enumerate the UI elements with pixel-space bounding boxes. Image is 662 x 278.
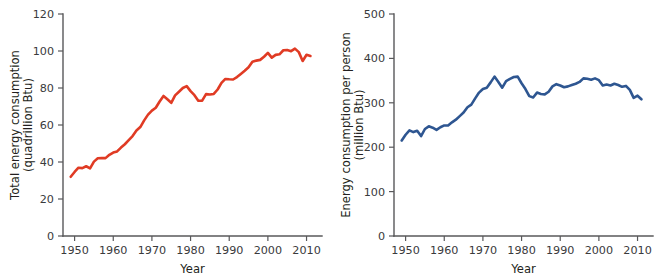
x-tick-label-1970: 1970 bbox=[138, 244, 166, 257]
x-axis-title: Year bbox=[510, 262, 536, 276]
y-tick-label-120: 120 bbox=[33, 8, 54, 21]
x-tick-label-2000: 2000 bbox=[254, 244, 282, 257]
y-axis-title-line-2: (quadrillion Btu) bbox=[21, 78, 35, 172]
chart-panel-per-person: 0100200300400500195019601970198019902000… bbox=[331, 0, 662, 278]
x-tick-label-1990: 1990 bbox=[215, 244, 243, 257]
x-tick-label-1960: 1960 bbox=[430, 244, 458, 257]
x-tick-label-1950: 1950 bbox=[60, 244, 88, 257]
y-tick-label-200: 200 bbox=[364, 141, 385, 154]
y-axis-title-line-1: Total energy consumption bbox=[8, 50, 22, 201]
x-tick-label-1960: 1960 bbox=[99, 244, 127, 257]
y-tick-label-60: 60 bbox=[40, 119, 54, 132]
y-tick-label-40: 40 bbox=[40, 156, 54, 169]
x-axis-title: Year bbox=[179, 262, 205, 276]
per-person-chart-svg: 0100200300400500195019601970198019902000… bbox=[331, 0, 662, 278]
y-axis-title-line-1: Energy consumption per person bbox=[339, 32, 353, 218]
x-tick-label-1980: 1980 bbox=[507, 244, 535, 257]
y-tick-label-0: 0 bbox=[378, 230, 385, 243]
x-tick-label-2010: 2010 bbox=[292, 244, 320, 257]
x-tick-label-1980: 1980 bbox=[176, 244, 204, 257]
x-tick-label-1990: 1990 bbox=[546, 244, 574, 257]
y-axis-title-line-2: (million Btu) bbox=[352, 89, 366, 160]
x-tick-label-2010: 2010 bbox=[623, 244, 651, 257]
y-tick-label-500: 500 bbox=[364, 8, 385, 21]
y-tick-label-400: 400 bbox=[364, 52, 385, 65]
series-line-1 bbox=[402, 77, 642, 141]
energy-consumption-figure: 0204060801001201950196019701980199020002… bbox=[0, 0, 662, 278]
y-tick-label-0: 0 bbox=[47, 230, 54, 243]
series-line-1 bbox=[71, 49, 311, 177]
x-tick-label-1970: 1970 bbox=[469, 244, 497, 257]
y-tick-label-80: 80 bbox=[40, 82, 54, 95]
total-energy-chart-svg: 0204060801001201950196019701980199020002… bbox=[0, 0, 331, 278]
x-tick-label-1950: 1950 bbox=[391, 244, 419, 257]
y-tick-label-300: 300 bbox=[364, 97, 385, 110]
y-tick-label-100: 100 bbox=[33, 45, 54, 58]
x-tick-label-2000: 2000 bbox=[585, 244, 613, 257]
y-tick-label-20: 20 bbox=[40, 193, 54, 206]
y-tick-label-100: 100 bbox=[364, 186, 385, 199]
chart-panel-total-energy: 0204060801001201950196019701980199020002… bbox=[0, 0, 331, 278]
